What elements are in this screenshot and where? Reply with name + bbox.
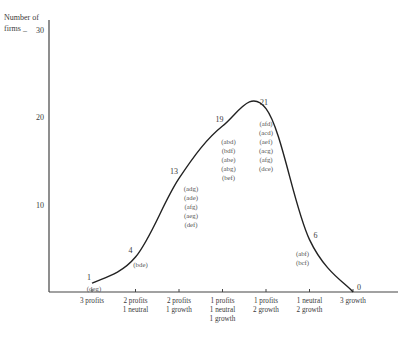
group-annotation: (afd): [259, 120, 272, 128]
group-annotation: (aeg): [184, 212, 198, 220]
x-tick-label: 1 profits: [210, 297, 234, 305]
group-annotation: (afg): [184, 203, 197, 211]
group-annotation: (bdf): [222, 147, 236, 155]
x-tick-label: 1 profits: [254, 297, 278, 305]
group-annotation: (dce): [259, 165, 273, 173]
y-tick-label: 20: [36, 113, 44, 122]
data-value-label: 4: [129, 246, 133, 255]
group-annotation: (abd): [221, 138, 235, 146]
group-annotation: (abf): [296, 250, 309, 258]
x-tick-label: 1 neutral: [123, 306, 148, 314]
y-axis-label: Number of firms _: [4, 13, 39, 33]
y-axis-label-line-2: firms _: [4, 24, 28, 33]
group-annotation: (deg): [87, 285, 101, 293]
x-tick-label: 1 growth: [210, 315, 236, 323]
x-tick-label: 1 neutral: [210, 306, 235, 314]
group-annotation: (bcf): [296, 259, 309, 267]
group-annotation: (ade): [184, 194, 198, 202]
chart-svg: Number of firms _ 102030 3 profits2 prof…: [0, 0, 413, 339]
x-tick-label: 1 neutral: [297, 297, 322, 305]
y-tick-label: 10: [36, 201, 44, 210]
y-axis-label-line-1: Number of: [4, 13, 39, 22]
y-ticks: 102030: [36, 26, 44, 210]
x-tick-label: 3 profits: [80, 297, 104, 305]
data-value-label: 0: [357, 283, 361, 292]
data-value-label: 13: [170, 167, 178, 176]
group-annotation: (adg): [184, 185, 198, 193]
x-tick-label: 1 growth: [166, 306, 192, 314]
group-annotation: (bde): [133, 261, 147, 269]
x-tick-label: 2 profits: [123, 297, 147, 305]
data-value-label: 19: [216, 115, 224, 124]
series-line: [92, 101, 353, 292]
y-tick-label: 30: [36, 26, 44, 35]
data-value-label: 21: [260, 98, 268, 107]
group-annotation: (abe): [222, 156, 236, 164]
group-annotation: (bef): [222, 174, 235, 182]
group-annotation: (acg): [259, 147, 273, 155]
group-annotation: (def): [184, 221, 197, 229]
x-tick-label: 2 growth: [297, 306, 323, 314]
x-ticks: 3 profits2 profits1 neutral2 profits1 gr…: [80, 289, 366, 323]
data-value-label: 1: [87, 273, 91, 282]
group-annotation: (afg): [259, 156, 272, 164]
group-annotation: (acd): [259, 129, 273, 137]
group-annotation: (aef): [260, 138, 273, 146]
x-tick-label: 2 profits: [167, 297, 191, 305]
x-tick-label: 3 growth: [340, 297, 366, 305]
x-tick-label: 2 growth: [253, 306, 279, 314]
group-annotation: (abg): [221, 165, 235, 173]
data-value-label: 6: [314, 231, 318, 240]
